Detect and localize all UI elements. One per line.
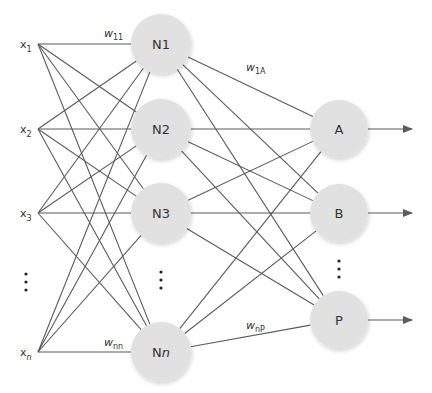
neural-network-diagram: N1N2N3NnABPx1x2x3xnw11wnnw1AwnP [0, 0, 432, 393]
connection-x1-N2 [38, 44, 136, 112]
connection-x1-N3 [38, 44, 143, 189]
ellipsis-dot [159, 278, 162, 281]
connection-xn-N3 [38, 235, 141, 352]
hidden-node-label: N2 [152, 122, 170, 137]
weight-label-w1A: w1A [246, 61, 266, 76]
connection-Nn-A [180, 152, 321, 329]
weight-label-w11: w11 [104, 27, 123, 42]
hidden-output-connections [177, 57, 323, 347]
ellipsis-dot [337, 267, 340, 270]
input-label-x2: x2 [20, 123, 32, 139]
connection-N1-P [177, 69, 323, 295]
ellipsis-dot [24, 272, 27, 275]
connection-xn-N2 [38, 155, 147, 352]
hidden-node-label: N1 [152, 37, 170, 52]
ellipsis-dot [24, 280, 27, 283]
ellipsis-dot [337, 259, 340, 262]
output-node-label: P [335, 313, 343, 328]
weight-label-wnP: wnP [246, 319, 265, 334]
connection-x2-N1 [38, 61, 136, 129]
ellipsis-dot [24, 288, 27, 291]
ellipsis-dot [159, 270, 162, 273]
connection-N2-P [181, 151, 319, 299]
ellipsis-dot [159, 286, 162, 289]
connection-x2-N3 [38, 129, 136, 196]
input-hidden-connections [38, 44, 150, 352]
connection-x1-Nn [38, 44, 150, 324]
output-arrows [368, 129, 412, 320]
input-label-xn: xn [20, 346, 32, 362]
weight-label-wnn: wnn [104, 336, 123, 351]
input-label-x1: x1 [20, 38, 32, 54]
hidden-node-label: N3 [152, 206, 170, 221]
output-node-label: B [335, 206, 344, 221]
connection-x2-Nn [38, 129, 147, 326]
ellipsis-dot [337, 275, 340, 278]
connection-x3-N1 [38, 68, 143, 213]
input-label-x3: x3 [20, 207, 32, 223]
output-node-label: A [335, 122, 344, 137]
hidden-node-label: Nn [152, 345, 170, 360]
